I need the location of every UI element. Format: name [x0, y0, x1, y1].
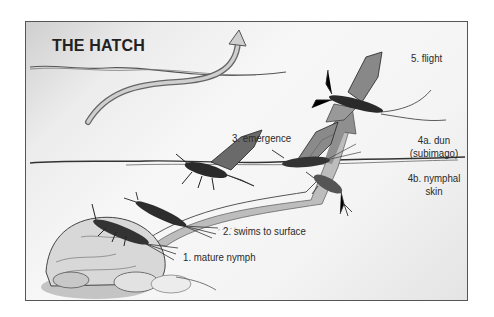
label-stage-1-nymph: 1. mature nymph	[183, 251, 256, 264]
lower-surface-line	[30, 157, 465, 163]
label-stage-3-emergence: 3. emergence	[232, 132, 291, 145]
upper-surface-line	[30, 66, 286, 75]
label-stage-4b-line1: 4b. nymphal	[406, 172, 462, 185]
label-stage-4a-line2: (subimago)	[408, 147, 461, 160]
label-stage-2-swims: 2. swims to surface	[223, 225, 306, 238]
diagram-title: THE HATCH	[52, 37, 145, 55]
label-stage-4a-dun: 4a. dun (subimago)	[408, 134, 461, 160]
hatch-diagram-frame: THE HATCH 5. flight 3. emergence 4a. dun…	[25, 21, 468, 301]
label-stage-4b-nymphal-skin: 4b. nymphal skin	[406, 172, 462, 198]
label-stage-5-flight: 5. flight	[411, 52, 442, 65]
label-stage-4a-line1: 4a. dun	[408, 134, 461, 147]
label-stage-4b-line2: skin	[406, 185, 462, 198]
